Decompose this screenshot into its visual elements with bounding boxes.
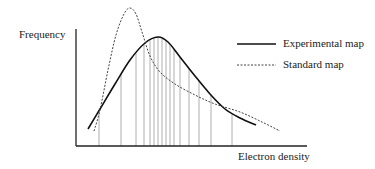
distribution-chart: [0, 0, 375, 169]
experimental-map-curve: [88, 37, 256, 129]
y-axis-label: Frequency: [19, 28, 65, 40]
x-axis-label: Electron density: [238, 150, 310, 162]
histogram-bins: [99, 37, 232, 146]
legend-experimental-label: Experimental map: [283, 37, 364, 49]
legend-standard-label: Standard map: [283, 58, 344, 70]
standard-map-curve: [94, 8, 280, 131]
